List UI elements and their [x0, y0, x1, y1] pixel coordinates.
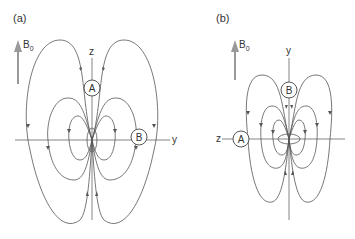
svg-text:A: A: [89, 83, 96, 94]
point-a-marker-a: A: [84, 80, 100, 96]
b0-label-b: B0: [239, 39, 250, 52]
point-b-marker-a: B: [131, 129, 147, 145]
dipole-field-diagram: (a) B0 z y: [0, 0, 355, 239]
panel-b-label: (b): [216, 12, 229, 24]
point-b-marker-b: B: [281, 82, 297, 98]
svg-text:A: A: [238, 134, 245, 145]
z-axis-label-a: z: [89, 46, 94, 57]
y-axis-label-b: y: [286, 45, 291, 56]
panel-b: (b) B0 y z: [216, 12, 345, 220]
b0-label-a: B0: [23, 39, 34, 52]
b0-field-arrow-icon-b: [231, 40, 239, 80]
svg-text:B: B: [136, 132, 143, 143]
panel-a: (a) B0 z y: [13, 12, 177, 224]
b0-field-arrow-icon: [14, 40, 22, 84]
svg-text:B: B: [286, 85, 293, 96]
y-axis-label-a: y: [172, 134, 177, 145]
point-a-marker-b: A: [233, 131, 249, 147]
panel-a-label: (a): [13, 12, 26, 24]
z-axis-label-b: z: [216, 133, 221, 144]
